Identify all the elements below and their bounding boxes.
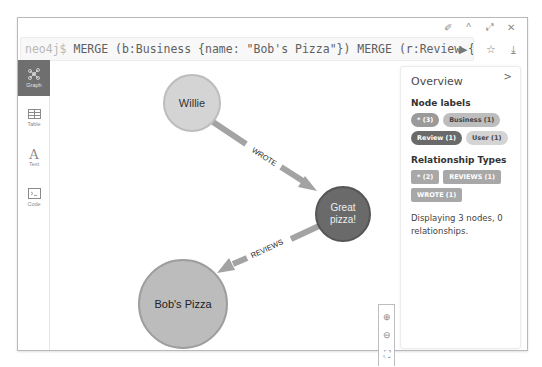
view-table-button[interactable]: Table <box>18 100 50 136</box>
view-code-label: Code <box>27 201 40 208</box>
node-label-chip-user[interactable]: User (1) <box>466 131 508 145</box>
node-label-review-line2: pizza! <box>330 214 356 225</box>
collapse-overview-icon[interactable]: > <box>504 71 512 82</box>
rel-type-chip-reviews[interactable]: REVIEWS (1) <box>443 170 501 184</box>
node-label-bobs-pizza: Bob's Pizza <box>154 298 212 310</box>
relationship-type-chips: * (2) REVIEWS (1) WROTE (1) <box>411 170 510 202</box>
overview-title: Overview <box>411 75 510 88</box>
node-label-chip-all[interactable]: * (3) <box>411 113 439 127</box>
node-labels-heading: Node labels <box>411 98 510 108</box>
relationship-label-reviews: REVIEWS <box>249 237 284 260</box>
node-bobs-pizza[interactable]: Bob's Pizza <box>139 260 227 348</box>
editor-prompt: neo4j$ <box>25 42 67 56</box>
view-graph-label: Graph <box>26 82 41 89</box>
download-button[interactable]: ⤓ <box>503 40 523 58</box>
view-switcher: Graph Table A Text Code <box>18 60 50 350</box>
zoom-in-icon[interactable]: ⊕ <box>383 312 391 322</box>
frame-controls: ✐ ^ ⤢ ✕ <box>437 20 521 34</box>
view-code-button[interactable]: Code <box>18 180 50 216</box>
relationship-reviews[interactable]: REVIEWS <box>217 226 319 273</box>
view-text-button[interactable]: A Text <box>18 140 50 176</box>
node-willie[interactable]: Willie <box>164 75 220 131</box>
pin-icon[interactable]: ✐ <box>437 20 458 34</box>
node-label-review-line1: Great <box>330 202 355 213</box>
query-text: MERGE (b:Business {name: "Bob's Pizza"})… <box>67 42 474 56</box>
favorite-button[interactable]: ☆ <box>481 40 501 58</box>
node-label-chip-review[interactable]: Review (1) <box>411 131 462 145</box>
code-icon <box>28 188 41 199</box>
node-review[interactable]: Great pizza! <box>316 187 370 241</box>
query-editor[interactable]: neo4j$ MERGE (b:Business {name: "Bob's P… <box>20 37 474 61</box>
collapse-icon[interactable]: ^ <box>458 20 479 34</box>
graph-icon <box>27 68 41 80</box>
fullscreen-icon[interactable]: ⤢ <box>479 20 500 34</box>
relationship-types-heading: Relationship Types <box>411 155 510 165</box>
text-icon: A <box>29 148 38 161</box>
relationship-label-wrote: WROTE <box>250 146 278 169</box>
rel-type-chip-wrote[interactable]: WROTE (1) <box>411 188 462 202</box>
overview-panel: Overview > Node labels * (3) Business (1… <box>400 66 521 349</box>
rel-type-chip-all[interactable]: * (2) <box>411 170 439 184</box>
result-frame: ✐ ^ ⤢ ✕ neo4j$ MERGE (b:Business {name: … <box>17 17 528 351</box>
view-text-label: Text <box>29 161 39 168</box>
relationship-wrote[interactable]: WROTE <box>213 122 317 191</box>
fit-icon[interactable]: ⛶ <box>384 349 390 359</box>
run-button[interactable]: ▶ <box>455 40 471 58</box>
overview-summary: Displaying 3 nodes, 0 relationships. <box>411 212 510 238</box>
node-label-willie: Willie <box>179 97 205 109</box>
node-label-chip-business[interactable]: Business (1) <box>443 113 500 127</box>
zoom-controls: ⊕ ⊖ ⛶ <box>378 304 395 366</box>
view-graph-button[interactable]: Graph <box>18 60 50 96</box>
table-icon <box>28 109 41 119</box>
close-icon[interactable]: ✕ <box>500 20 521 34</box>
node-label-chips: * (3) Business (1) Review (1) User (1) <box>411 113 510 145</box>
zoom-out-icon[interactable]: ⊖ <box>383 330 391 340</box>
view-table-label: Table <box>27 121 40 128</box>
